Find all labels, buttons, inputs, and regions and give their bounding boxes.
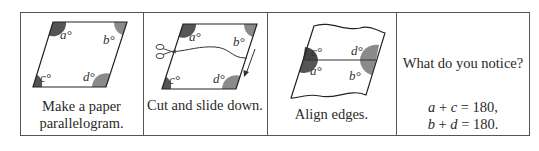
label-a: a° <box>60 27 72 42</box>
label-c: c° <box>40 70 51 85</box>
panel-2-cut: a° b° c° d° <box>156 24 257 89</box>
svg-text:a°: a° <box>189 29 201 44</box>
caption-make-parallelogram: Make a paper parallelogram. <box>20 98 143 132</box>
panel-1-parallelogram: a° b° c° d° <box>33 22 127 87</box>
question-text: What do you notice? <box>396 55 530 72</box>
equation-1: a + c = 180, <box>396 99 530 116</box>
svg-text:d°: d° <box>351 43 363 58</box>
caption-align-edges: Align edges. <box>267 106 396 123</box>
equation-2: b + d = 180. <box>396 116 530 133</box>
svg-text:c°: c° <box>169 72 180 87</box>
svg-text:a°: a° <box>310 63 322 78</box>
panel-3-aligned: c° d° a° b° <box>291 24 385 98</box>
caption-cut-slide: Cut and slide down. <box>143 97 267 114</box>
label-d: d° <box>83 69 95 84</box>
caption-line-2: parallelogram. <box>20 115 143 132</box>
svg-text:b°: b° <box>349 68 361 83</box>
svg-text:b°: b° <box>233 34 245 49</box>
slide-down-arrow-icon <box>244 49 256 77</box>
svg-text:d°: d° <box>213 71 225 86</box>
equation-block: a + c = 180, b + d = 180. <box>396 99 530 133</box>
svg-text:c°: c° <box>311 44 322 59</box>
caption-line-1: Make a paper <box>20 98 143 115</box>
label-b: b° <box>103 32 115 47</box>
